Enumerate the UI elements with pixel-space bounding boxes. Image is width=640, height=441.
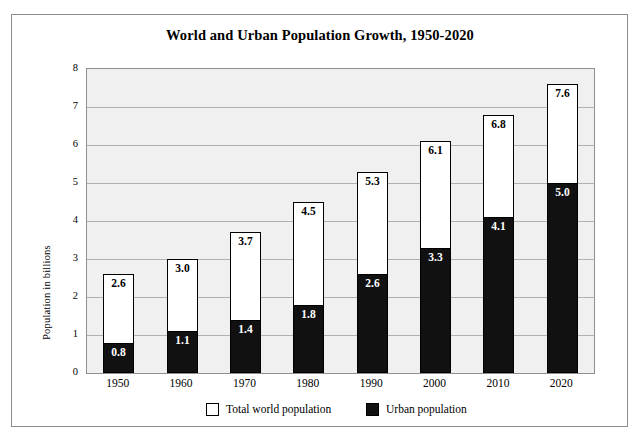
y-axis-tick-label: 2 [52, 291, 78, 301]
y-axis-tick-label: 5 [52, 177, 78, 187]
bar-value-label-total: 6.8 [483, 118, 514, 130]
bar-group[interactable]: 6.84.1 [483, 69, 514, 373]
y-axis-tick-label: 1 [52, 329, 78, 339]
y-axis-tick-label: 4 [52, 215, 78, 225]
bar-value-label-urban: 4.1 [483, 220, 514, 232]
bar-urban-population[interactable] [483, 217, 514, 373]
bar-value-label-total: 5.3 [357, 175, 388, 187]
bar-value-label-urban: 3.3 [420, 251, 451, 263]
gridline [87, 107, 594, 108]
gridline [87, 145, 594, 146]
x-axis-tick-label: 1990 [340, 377, 403, 389]
bar-value-label-urban: 2.6 [357, 277, 388, 289]
legend-label: Total world population [226, 403, 331, 415]
bar-urban-population[interactable] [420, 248, 451, 373]
bar-urban-population[interactable] [547, 183, 578, 373]
white-square-swatch [206, 403, 219, 416]
gridline [87, 335, 594, 336]
bar-value-label-total: 7.6 [547, 87, 578, 99]
x-axis-tick-label: 2000 [403, 377, 466, 389]
black-square-swatch [366, 403, 379, 416]
legend-item-urban-population: Urban population [366, 398, 467, 420]
gridline [87, 259, 594, 260]
x-axis-tick-label: 1980 [276, 377, 339, 389]
bar-value-label-total: 6.1 [420, 144, 451, 156]
x-axis-tick-label: 1960 [150, 377, 213, 389]
gridline [87, 221, 594, 222]
bar-value-label-total: 3.7 [230, 235, 261, 247]
x-axis-tick-label: 2020 [530, 377, 593, 389]
chart-page: World and Urban Population Growth, 1950-… [0, 0, 640, 441]
y-axis-tick-label: 7 [52, 101, 78, 111]
y-axis-tick-label: 6 [52, 139, 78, 149]
bar-value-label-urban: 0.8 [103, 346, 134, 358]
bar-group[interactable]: 4.51.8 [293, 69, 324, 373]
bar-value-label-total: 2.6 [103, 277, 134, 289]
legend-label: Urban population [386, 403, 467, 415]
bar-group[interactable]: 2.60.8 [103, 69, 134, 373]
bar-value-label-urban: 1.8 [293, 308, 324, 320]
gridline [87, 183, 594, 184]
y-axis-tick-label: 8 [52, 63, 78, 73]
x-axis-tick-label: 1970 [213, 377, 276, 389]
x-axis-tick-label: 2010 [466, 377, 529, 389]
y-axis-title: Population in billions [41, 20, 52, 340]
chart-legend: Total world population Urban population [0, 398, 640, 420]
legend-item-total-world-population: Total world population [206, 398, 331, 420]
gridline [87, 297, 594, 298]
y-axis-tick-label: 3 [52, 253, 78, 263]
y-axis-tick-label: 0 [52, 367, 78, 377]
bar-group[interactable]: 3.71.4 [230, 69, 261, 373]
plot-area: 2.60.83.01.13.71.44.51.85.32.66.13.36.84… [86, 68, 595, 374]
chart-title: World and Urban Population Growth, 1950-… [0, 27, 640, 44]
bar-value-label-urban: 5.0 [547, 186, 578, 198]
bar-value-label-urban: 1.1 [167, 334, 198, 346]
bar-value-label-urban: 1.4 [230, 323, 261, 335]
bar-value-label-total: 3.0 [167, 262, 198, 274]
bar-value-label-total: 4.5 [293, 205, 324, 217]
bar-group[interactable]: 6.13.3 [420, 69, 451, 373]
bar-group[interactable]: 5.32.6 [357, 69, 388, 373]
x-axis-tick-label: 1950 [86, 377, 149, 389]
bar-group[interactable]: 7.65.0 [547, 69, 578, 373]
bar-group[interactable]: 3.01.1 [167, 69, 198, 373]
